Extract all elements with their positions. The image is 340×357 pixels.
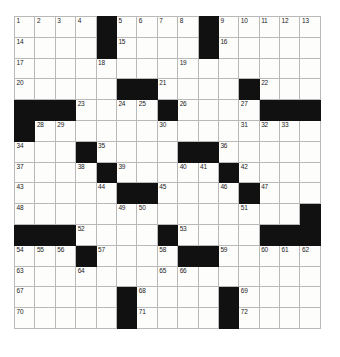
- crossword-cell[interactable]: [96, 120, 116, 141]
- crossword-cell[interactable]: 11: [259, 17, 279, 38]
- crossword-cell[interactable]: [55, 287, 75, 308]
- crossword-cell[interactable]: 13: [300, 17, 320, 38]
- crossword-cell[interactable]: [55, 58, 75, 79]
- crossword-cell[interactable]: 51: [239, 204, 259, 225]
- crossword-cell[interactable]: [198, 100, 218, 121]
- crossword-cell[interactable]: [76, 204, 96, 225]
- crossword-cell[interactable]: [116, 266, 136, 287]
- crossword-cell[interactable]: [157, 58, 177, 79]
- crossword-cell[interactable]: [96, 100, 116, 121]
- crossword-cell[interactable]: [218, 120, 238, 141]
- crossword-cell[interactable]: 65: [157, 266, 177, 287]
- crossword-cell[interactable]: 12: [280, 17, 300, 38]
- crossword-cell[interactable]: 72: [239, 308, 259, 329]
- crossword-cell[interactable]: [280, 58, 300, 79]
- crossword-cell[interactable]: [300, 183, 320, 204]
- crossword-cell[interactable]: [239, 224, 259, 245]
- crossword-cell[interactable]: [55, 183, 75, 204]
- crossword-cell[interactable]: 66: [178, 266, 198, 287]
- crossword-cell[interactable]: [259, 58, 279, 79]
- crossword-cell[interactable]: [76, 287, 96, 308]
- crossword-cell[interactable]: [198, 224, 218, 245]
- crossword-cell[interactable]: [178, 37, 198, 58]
- crossword-cell[interactable]: 9: [218, 17, 238, 38]
- crossword-cell[interactable]: [55, 141, 75, 162]
- crossword-cell[interactable]: [96, 266, 116, 287]
- crossword-cell[interactable]: [137, 37, 157, 58]
- crossword-cell[interactable]: 2: [35, 17, 55, 38]
- crossword-cell[interactable]: 15: [116, 37, 136, 58]
- crossword-cell[interactable]: [76, 183, 96, 204]
- crossword-cell[interactable]: 71: [137, 308, 157, 329]
- crossword-cell[interactable]: [300, 287, 320, 308]
- crossword-cell[interactable]: [178, 204, 198, 225]
- crossword-cell[interactable]: [96, 79, 116, 100]
- crossword-cell[interactable]: [157, 37, 177, 58]
- crossword-cell[interactable]: 41: [198, 162, 218, 183]
- crossword-cell[interactable]: [35, 266, 55, 287]
- crossword-cell[interactable]: [178, 120, 198, 141]
- crossword-cell[interactable]: [198, 58, 218, 79]
- crossword-cell[interactable]: 32: [259, 120, 279, 141]
- crossword-cell[interactable]: 69: [239, 287, 259, 308]
- crossword-cell[interactable]: [137, 245, 157, 266]
- crossword-cell[interactable]: 53: [178, 224, 198, 245]
- crossword-cell[interactable]: [76, 58, 96, 79]
- crossword-cell[interactable]: [280, 162, 300, 183]
- crossword-cell[interactable]: [157, 162, 177, 183]
- crossword-cell[interactable]: 67: [15, 287, 35, 308]
- crossword-cell[interactable]: 63: [15, 266, 35, 287]
- crossword-cell[interactable]: 17: [15, 58, 35, 79]
- crossword-cell[interactable]: 16: [218, 37, 238, 58]
- crossword-cell[interactable]: [198, 287, 218, 308]
- crossword-cell[interactable]: [300, 37, 320, 58]
- crossword-cell[interactable]: 64: [76, 266, 96, 287]
- crossword-cell[interactable]: 30: [157, 120, 177, 141]
- crossword-cell[interactable]: [35, 141, 55, 162]
- crossword-cell[interactable]: [35, 204, 55, 225]
- crossword-cell[interactable]: [300, 79, 320, 100]
- crossword-cell[interactable]: 27: [239, 100, 259, 121]
- crossword-cell[interactable]: [259, 162, 279, 183]
- crossword-cell[interactable]: [300, 162, 320, 183]
- crossword-cell[interactable]: [35, 37, 55, 58]
- crossword-cell[interactable]: [300, 58, 320, 79]
- crossword-cell[interactable]: [35, 79, 55, 100]
- crossword-cell[interactable]: 45: [157, 183, 177, 204]
- crossword-cell[interactable]: [280, 183, 300, 204]
- crossword-cell[interactable]: [55, 162, 75, 183]
- crossword-cell[interactable]: [137, 266, 157, 287]
- crossword-cell[interactable]: [300, 308, 320, 329]
- crossword-cell[interactable]: 5: [116, 17, 136, 38]
- crossword-cell[interactable]: [198, 266, 218, 287]
- crossword-cell[interactable]: [35, 287, 55, 308]
- crossword-cell[interactable]: [96, 287, 116, 308]
- crossword-cell[interactable]: [55, 204, 75, 225]
- crossword-cell[interactable]: [96, 204, 116, 225]
- crossword-cell[interactable]: 10: [239, 17, 259, 38]
- crossword-cell[interactable]: 50: [137, 204, 157, 225]
- crossword-cell[interactable]: [157, 204, 177, 225]
- crossword-cell[interactable]: 6: [137, 17, 157, 38]
- crossword-cell[interactable]: 22: [259, 79, 279, 100]
- crossword-cell[interactable]: 42: [239, 162, 259, 183]
- crossword-cell[interactable]: 48: [15, 204, 35, 225]
- crossword-cell[interactable]: 43: [15, 183, 35, 204]
- crossword-cell[interactable]: 47: [259, 183, 279, 204]
- crossword-cell[interactable]: 59: [218, 245, 238, 266]
- crossword-cell[interactable]: 33: [280, 120, 300, 141]
- crossword-cell[interactable]: 31: [239, 120, 259, 141]
- crossword-cell[interactable]: [280, 266, 300, 287]
- crossword-cell[interactable]: [116, 120, 136, 141]
- crossword-cell[interactable]: 37: [15, 162, 35, 183]
- crossword-cell[interactable]: [96, 224, 116, 245]
- crossword-cell[interactable]: [280, 37, 300, 58]
- crossword-cell[interactable]: [259, 287, 279, 308]
- crossword-cell[interactable]: [259, 266, 279, 287]
- crossword-cell[interactable]: [218, 58, 238, 79]
- crossword-cell[interactable]: 28: [35, 120, 55, 141]
- crossword-cell[interactable]: 26: [178, 100, 198, 121]
- crossword-cell[interactable]: [116, 245, 136, 266]
- crossword-cell[interactable]: [239, 37, 259, 58]
- crossword-cell[interactable]: [55, 79, 75, 100]
